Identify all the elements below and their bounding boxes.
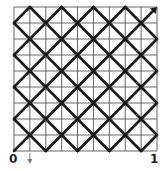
down-arrow-marker-icon xyxy=(27,153,32,164)
axis-label-start: 0 xyxy=(9,153,17,165)
corner-arrow-icon xyxy=(141,7,157,23)
diamond-lattice-diagram xyxy=(0,0,164,171)
axis-label-end: 1 xyxy=(150,153,158,165)
diagonal-lattice xyxy=(14,7,157,151)
